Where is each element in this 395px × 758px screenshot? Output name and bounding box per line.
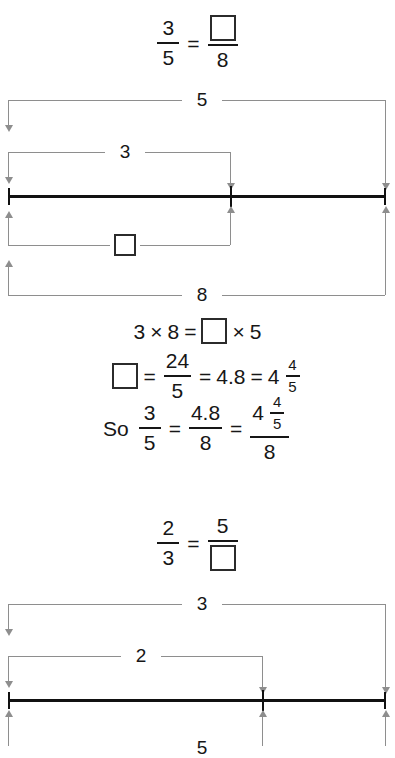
- bracket-bottom-right-arrow: [382, 710, 390, 717]
- bracket-upper-inner-left-arrow: [5, 681, 13, 688]
- bracket-label-top: 3: [182, 594, 222, 613]
- bracket-top-left-stem: [8, 604, 9, 630]
- bracket-top-right-stem: [385, 604, 386, 688]
- bracket-bottom-mid-arrow: [259, 710, 267, 717]
- bracket-bottom-mid-stem: [262, 716, 263, 746]
- bracket-bottom-left-stem: [8, 716, 9, 746]
- bracket-upper-inner-left-stem: [8, 656, 9, 682]
- bar-right-cap: [384, 692, 386, 709]
- bracket-upper-inner-right-stem: [262, 656, 263, 688]
- number-bar: [8, 699, 385, 702]
- bar-left-cap: [8, 692, 10, 709]
- bracket-label-upper-inner: 2: [121, 646, 161, 665]
- bracket-label-bottom: 5: [182, 738, 222, 757]
- bar-tick-mark: [262, 690, 264, 711]
- bracket-bottom-right-stem: [385, 716, 386, 746]
- bracket-top-left-arrow: [5, 629, 13, 636]
- bracket-bottom-left-arrow: [5, 710, 13, 717]
